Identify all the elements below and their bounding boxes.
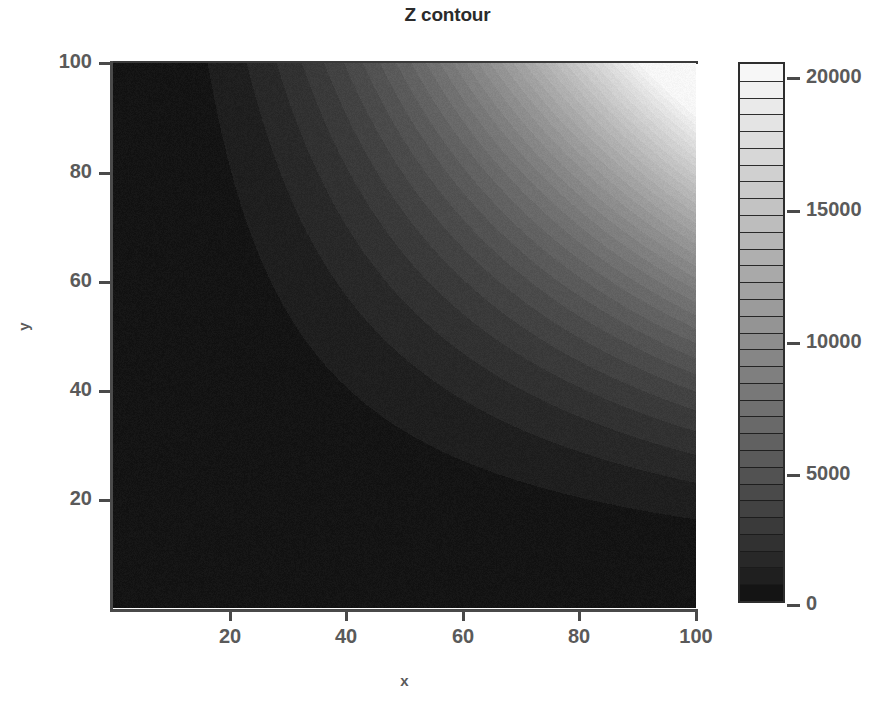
x-tick-label-1: 40 (311, 625, 381, 648)
y-tick-label-3: 80 (18, 160, 92, 183)
y-tick-label-4: 100 (18, 50, 92, 73)
x-tick-0 (229, 609, 232, 621)
chart-root: Z contour 20 40 60 80 100 100 80 60 40 2… (0, 0, 895, 704)
y-tick-label-0: 20 (18, 487, 92, 510)
colorbar-tick-20000 (787, 77, 800, 80)
page-title: Z contour (0, 4, 895, 26)
x-tick-2 (462, 609, 465, 621)
y-tick-label-1: 40 (18, 378, 92, 401)
colorbar-label-15000: 15000 (806, 198, 862, 221)
colorbar-label-20000: 20000 (806, 65, 862, 88)
x-tick-4 (695, 609, 698, 621)
colorbar-label-0: 0 (806, 592, 817, 615)
x-tick-label-2: 60 (428, 625, 498, 648)
x-axis-line (113, 609, 698, 612)
colorbar (738, 62, 785, 603)
colorbar-canvas (740, 64, 783, 601)
y-tick-80 (99, 172, 111, 175)
y-tick-40 (99, 390, 111, 393)
y-axis-label: y (15, 297, 32, 357)
colorbar-label-5000: 5000 (806, 462, 851, 485)
x-tick-label-0: 20 (195, 625, 265, 648)
y-tick-20 (99, 499, 111, 502)
colorbar-tick-15000 (787, 210, 800, 213)
colorbar-tick-10000 (787, 342, 800, 345)
colorbar-label-10000: 10000 (806, 330, 862, 353)
y-tick-100 (99, 62, 111, 65)
x-tick-3 (578, 609, 581, 621)
x-axis-label: x (113, 672, 696, 689)
y-tick-label-2: 60 (18, 269, 92, 292)
heatmap-canvas (113, 63, 696, 608)
colorbar-tick-0 (787, 604, 800, 607)
y-tick-60 (99, 281, 111, 284)
x-tick-label-4: 100 (661, 625, 731, 648)
heatmap-plot-area (113, 63, 696, 608)
colorbar-tick-5000 (787, 474, 800, 477)
x-tick-1 (345, 609, 348, 621)
x-tick-label-3: 80 (544, 625, 614, 648)
